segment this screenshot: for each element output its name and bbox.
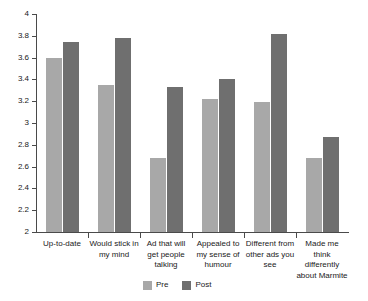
legend-swatch-icon <box>143 281 152 290</box>
x-axis-label: Ad that will get people talking <box>140 239 192 271</box>
x-axis-separator <box>244 233 245 238</box>
y-tick-label: 2.2 <box>18 204 29 215</box>
y-axis-tick: 2.2 <box>0 210 36 211</box>
legend-item: Pre <box>143 280 168 290</box>
x-axis-separator <box>140 233 141 238</box>
x-axis-separator <box>296 233 297 238</box>
y-tick-label: 2 <box>25 226 29 237</box>
y-axis-tick: 3 <box>0 123 36 124</box>
y-tick-label: 3.8 <box>18 30 29 41</box>
y-axis-tick: 3.6 <box>0 58 36 59</box>
legend-swatch-icon <box>182 281 191 290</box>
x-axis-label: Appealed to my sense of humour <box>192 239 244 271</box>
y-tick-mark <box>32 232 36 233</box>
y-tick-label: 3.6 <box>18 52 29 63</box>
plot-area <box>36 14 348 232</box>
y-axis-tick: 3.8 <box>0 36 36 37</box>
y-tick-label: 2.6 <box>18 161 29 172</box>
bar-pre <box>306 158 322 232</box>
x-axis-separator <box>192 233 193 238</box>
legend-label: Post <box>195 280 211 290</box>
x-axis-label: Different from other ads you see <box>244 239 296 271</box>
bar-pre <box>98 85 114 232</box>
x-axis-label: Made me think differently about Marmite <box>296 239 348 281</box>
y-tick-label: 2.4 <box>18 182 29 193</box>
y-axis-tick: 2.8 <box>0 145 36 146</box>
y-tick-label: 3.2 <box>18 95 29 106</box>
bar-post <box>115 38 131 232</box>
y-tick-label: 3 <box>25 117 29 128</box>
legend-item: Post <box>182 280 211 290</box>
x-axis-separator <box>88 233 89 238</box>
y-axis-tick: 3.2 <box>0 101 36 102</box>
y-axis-tick: 2.6 <box>0 167 36 168</box>
x-axis-label: Up-to-date <box>36 239 88 250</box>
bar-post <box>167 87 183 232</box>
bar-pre <box>202 99 218 232</box>
bar-post <box>323 137 339 232</box>
bar-post <box>271 34 287 232</box>
y-axis-tick: 2 <box>0 232 36 233</box>
bar-pre <box>254 102 270 232</box>
bar-chart: 22.22.42.62.833.23.43.63.84 Up-to-dateWo… <box>0 0 368 301</box>
y-axis-tick: 3.4 <box>0 79 36 80</box>
y-tick-label: 4 <box>25 8 29 19</box>
bar-pre <box>150 158 166 232</box>
y-tick-label: 3.4 <box>18 73 29 84</box>
chart-legend: PrePost <box>143 280 219 290</box>
y-tick-label: 2.8 <box>18 139 29 150</box>
legend-label: Pre <box>156 280 168 290</box>
y-axis-tick: 4 <box>0 14 36 15</box>
bar-pre <box>46 58 62 232</box>
bar-post <box>219 79 235 232</box>
x-axis-label: Would stick in my mind <box>88 239 140 260</box>
bar-post <box>63 42 79 232</box>
y-axis-tick: 2.4 <box>0 188 36 189</box>
